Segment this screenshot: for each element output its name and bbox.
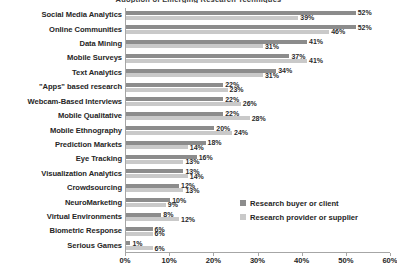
bar-value-label: 9%: [168, 201, 178, 208]
bar-1: [126, 30, 329, 34]
bar-0: [126, 40, 307, 44]
bar-value-label: 12%: [181, 216, 195, 223]
bar-value-label: 41%: [309, 57, 323, 64]
x-axis-tick-labels: 0%10%20%30%40%50%60%: [125, 256, 390, 270]
bar-0: [126, 112, 223, 116]
x-tick-label: 10%: [162, 256, 177, 265]
bar-1: [126, 88, 228, 92]
bar-value-label: 24%: [234, 129, 248, 136]
bar-0: [126, 198, 170, 202]
chart-title: Adoption of Emerging Research Techniques: [0, 0, 397, 3]
bar-value-label: 26%: [243, 100, 257, 107]
bar-1: [126, 174, 188, 178]
category-label: Webcam-Based Interviews: [0, 98, 122, 106]
legend-swatch-icon: [240, 214, 246, 220]
bar-value-label: 31%: [265, 43, 279, 50]
bar-chart: Adoption of Emerging Research Techniques…: [0, 0, 397, 279]
bar-1: [126, 246, 153, 250]
bar-1: [126, 73, 263, 77]
bar-1: [126, 16, 298, 20]
bar-1: [126, 203, 166, 207]
bar-0: [126, 184, 179, 188]
x-tick-label: 20%: [206, 256, 221, 265]
bar-1: [126, 145, 188, 149]
bar-value-label: 39%: [300, 14, 314, 21]
bar-1: [126, 44, 263, 48]
bar-0: [126, 69, 276, 73]
bar-value-label: 52%: [358, 9, 372, 16]
bar-1: [126, 217, 179, 221]
bar-0: [126, 25, 356, 29]
bar-1: [126, 232, 153, 236]
bar-value-label: 52%: [358, 24, 372, 31]
bar-1: [126, 188, 183, 192]
x-tick-label: 30%: [250, 256, 265, 265]
bar-0: [126, 169, 183, 173]
legend-label: Research buyer or client: [250, 199, 339, 208]
bar-value-label: 6%: [155, 230, 165, 237]
bar-value-label: 23%: [230, 86, 244, 93]
bar-value-label: 13%: [185, 187, 199, 194]
category-label: Virtual Environments: [0, 213, 122, 221]
bar-value-label: 46%: [331, 28, 345, 35]
bar-1: [126, 131, 232, 135]
bar-value-label: 41%: [309, 38, 323, 45]
category-label: Biometric Response: [0, 227, 122, 235]
bar-1: [126, 102, 241, 106]
bar-value-label: 6%: [155, 245, 165, 252]
category-label: NeuroMarketing: [0, 199, 122, 207]
category-label: Visualization Analytics: [0, 170, 122, 178]
chart-legend: Research buyer or clientResearch provide…: [240, 196, 395, 224]
category-label: Data Mining: [0, 40, 122, 48]
bar-value-label: 14%: [190, 144, 204, 151]
bar-0: [126, 126, 214, 130]
category-label: Text Analytics: [0, 69, 122, 77]
bar-value-label: 14%: [190, 173, 204, 180]
category-label: Mobile Surveys: [0, 54, 122, 62]
category-label: Mobile Ethnography: [0, 127, 122, 135]
bar-value-label: 13%: [185, 158, 199, 165]
bar-1: [126, 59, 307, 63]
bar-1: [126, 160, 183, 164]
x-tick-label: 40%: [294, 256, 309, 265]
category-label: Online Communities: [0, 26, 122, 34]
category-label: Mobile Qualitative: [0, 112, 122, 120]
bar-value-label: 34%: [278, 67, 292, 74]
x-tick-label: 50%: [338, 256, 353, 265]
category-label: Eye Tracking: [0, 155, 122, 163]
category-label: Prediction Markets: [0, 141, 122, 149]
bar-value-label: 28%: [252, 115, 266, 122]
bar-0: [126, 54, 289, 58]
category-label: Social Media Analytics: [0, 11, 122, 19]
category-label: "Apps" based research: [0, 83, 122, 91]
bar-0: [126, 97, 223, 101]
legend-item[interactable]: Research provider or supplier: [240, 210, 395, 224]
legend-swatch-icon: [240, 200, 246, 206]
bar-0: [126, 11, 356, 15]
bar-0: [126, 213, 161, 217]
bar-value-label: 31%: [265, 72, 279, 79]
bar-0: [126, 83, 223, 87]
legend-label: Research provider or supplier: [250, 213, 358, 222]
bar-1: [126, 116, 250, 120]
category-axis-labels: Social Media AnalyticsOnline Communities…: [0, 8, 122, 253]
bar-value-label: 16%: [199, 154, 213, 161]
category-label: Serious Games: [0, 242, 122, 250]
bar-0: [126, 227, 153, 231]
bar-value-label: 18%: [208, 139, 222, 146]
x-tick-label: 60%: [382, 256, 397, 265]
legend-item[interactable]: Research buyer or client: [240, 196, 395, 210]
x-tick-label: 0%: [120, 256, 131, 265]
bar-0: [126, 241, 130, 245]
category-label: Crowdsourcing: [0, 184, 122, 192]
